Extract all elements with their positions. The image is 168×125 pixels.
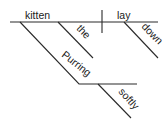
subject-word: kitten bbox=[25, 9, 50, 21]
verb-word: lay bbox=[117, 9, 131, 21]
participle-word: Purring bbox=[60, 48, 94, 78]
article-word: the bbox=[75, 22, 94, 41]
sentence-diagram: kitten lay the down Purring softly bbox=[0, 0, 168, 125]
participle-adverb-word: softly bbox=[117, 85, 143, 112]
